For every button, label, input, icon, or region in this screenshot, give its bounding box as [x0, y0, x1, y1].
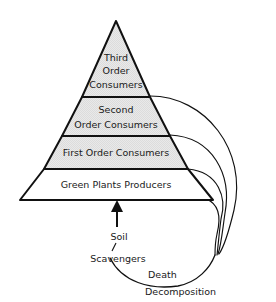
soil-scavengers-connector	[112, 243, 116, 251]
tier-label-line: Green Plants Producers	[61, 179, 172, 190]
soil-label: Soil	[110, 231, 127, 242]
tier-label-line: First Order Consumers	[63, 147, 169, 158]
diagram-canvas: Third Order Consumers Second Order Consu…	[0, 0, 276, 302]
tier-label-line: Order	[103, 65, 130, 76]
tier-label-line: Second	[99, 104, 134, 115]
tier-label-first-order-consumers: First Order Consumers	[63, 147, 169, 158]
scavengers-label: Scavengers	[90, 253, 145, 264]
decomposition-label: Decomposition	[145, 286, 216, 297]
soil-input-arrow	[111, 200, 123, 227]
feedback-arc-producers	[206, 199, 219, 255]
tier-label-line: Third	[103, 52, 128, 63]
death-label: Death	[148, 269, 177, 280]
tier-label-green-plants-producers: Green Plants Producers	[61, 179, 172, 190]
tier-label-line: Order Consumers	[74, 119, 157, 130]
energy-pyramid-diagram: Third Order Consumers Second Order Consu…	[0, 0, 276, 302]
tier-label-line: Consumers	[89, 79, 142, 90]
